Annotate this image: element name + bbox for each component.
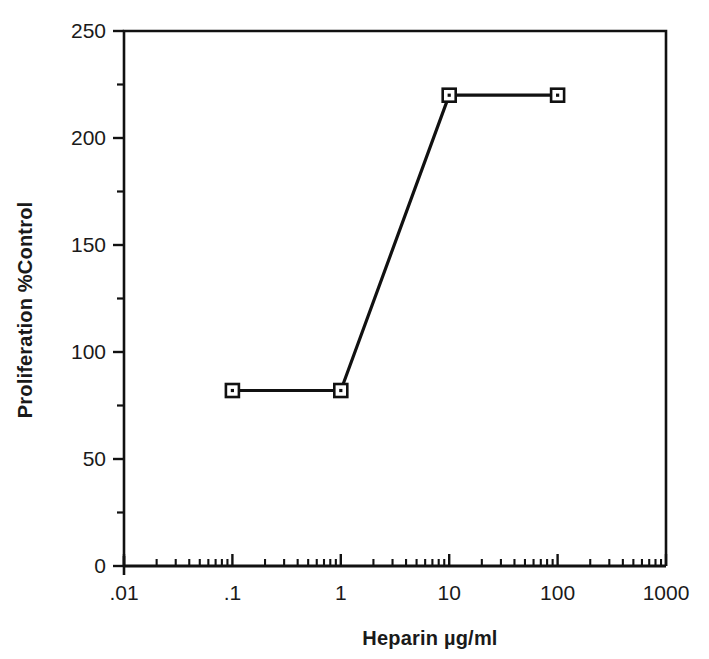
y-tick-label: 150 bbox=[71, 233, 106, 256]
x-tick-label: 1 bbox=[335, 581, 347, 604]
marker-center-dot bbox=[339, 389, 342, 392]
data-point-marker bbox=[226, 384, 239, 397]
chart-canvas: 050100150200250 .01.11101001000 Heparin … bbox=[0, 0, 709, 659]
marker-center-dot bbox=[448, 94, 451, 97]
chart-figure: 050100150200250 .01.11101001000 Heparin … bbox=[0, 0, 709, 659]
x-tick-label: 100 bbox=[540, 581, 575, 604]
data-point-marker bbox=[551, 89, 564, 102]
data-point-marker bbox=[334, 384, 347, 397]
y-tick-label: 200 bbox=[71, 126, 106, 149]
x-tick-label: .01 bbox=[109, 581, 138, 604]
y-axis-title: Proliferation %Control bbox=[14, 202, 36, 419]
x-axis-title: Heparin µg/ml bbox=[362, 627, 497, 649]
y-tick-label: 100 bbox=[71, 340, 106, 363]
y-tick-label: 0 bbox=[94, 554, 106, 577]
y-tick-label: 50 bbox=[83, 447, 106, 470]
data-point-marker bbox=[443, 89, 456, 102]
marker-center-dot bbox=[556, 94, 559, 97]
x-tick-label: 10 bbox=[438, 581, 461, 604]
chart-background bbox=[0, 0, 709, 659]
x-tick-label: .1 bbox=[224, 581, 242, 604]
marker-center-dot bbox=[231, 389, 234, 392]
y-tick-label: 250 bbox=[71, 19, 106, 42]
x-tick-label: 1000 bbox=[643, 581, 690, 604]
